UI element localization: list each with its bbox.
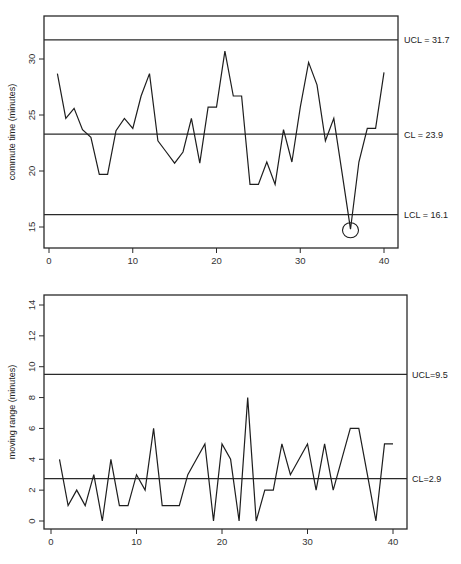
- y-tick-label: 20: [26, 166, 37, 177]
- series-line: [60, 398, 394, 521]
- y-tick-label: 15: [26, 222, 37, 233]
- y-tick-label: 25: [26, 110, 37, 121]
- control-charts: 01020304015202530commute time (minutes)U…: [0, 0, 461, 564]
- moving-range-chart: 01020304002468101214moving range (minute…: [7, 295, 448, 547]
- x-tick-label: 40: [379, 255, 390, 266]
- plot-frame: [44, 295, 407, 529]
- y-tick-label: 30: [26, 54, 37, 65]
- x-tick-label: 20: [211, 255, 222, 266]
- x-tick-label: 20: [217, 536, 228, 547]
- cl-label: CL=2.9: [412, 474, 441, 484]
- x-tick-label: 10: [131, 536, 142, 547]
- y-tick-label: 8: [26, 395, 37, 400]
- y-tick-label: 10: [26, 361, 37, 372]
- y-tick-label: 0: [26, 518, 37, 523]
- x-tick-label: 30: [302, 536, 313, 547]
- y-tick-label: 2: [26, 487, 37, 492]
- x-tick-label: 0: [46, 255, 51, 266]
- y-tick-label: 14: [26, 300, 37, 311]
- ucl-label: UCL=9.5: [412, 370, 448, 380]
- y-axis-label: moving range (minutes): [7, 365, 17, 460]
- y-axis-label: commute time (minutes): [7, 84, 17, 181]
- y-tick-label: 4: [26, 457, 37, 462]
- y-tick-label: 12: [26, 331, 37, 342]
- cl-label: CL = 23.9: [404, 130, 443, 140]
- individuals-chart: 01020304015202530commute time (minutes)U…: [7, 16, 449, 266]
- series-line: [57, 51, 384, 229]
- lcl-label: LCL = 16.1: [404, 210, 448, 220]
- plot-frame: [44, 16, 398, 248]
- x-tick-label: 10: [127, 255, 138, 266]
- ucl-label: UCL = 31.7: [404, 35, 449, 45]
- x-tick-label: 0: [48, 536, 53, 547]
- x-tick-label: 30: [295, 255, 306, 266]
- x-tick-label: 40: [388, 536, 399, 547]
- y-tick-label: 6: [26, 426, 37, 431]
